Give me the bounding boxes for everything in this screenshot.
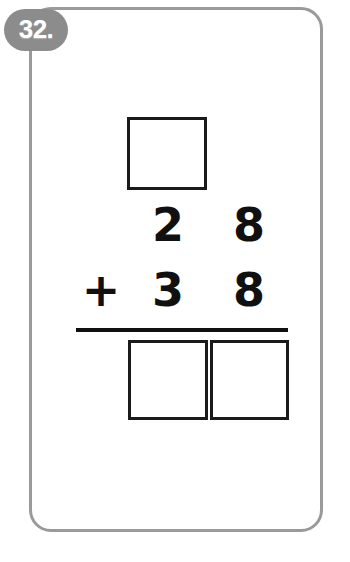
addend-2-ones-digit: 8 [226,267,272,313]
margin-attribution-text [340,88,350,388]
sum-rule-line [76,328,288,332]
worksheet-page: 32. 2 8 + 3 8 [0,0,350,562]
answer-box-tens[interactable] [128,340,208,420]
addend-2-tens-digit: 3 [145,267,191,313]
answer-box-ones[interactable] [210,340,289,420]
carry-box[interactable] [127,117,207,190]
addend-1-ones-digit: 8 [226,202,272,248]
plus-operator-icon: + [78,267,124,313]
problem-number-label: 32. [19,16,54,44]
problem-number-badge: 32. [4,9,68,51]
addend-1-tens-digit: 2 [145,202,191,248]
vertical-addition-problem: 2 8 + 3 8 [0,0,350,562]
